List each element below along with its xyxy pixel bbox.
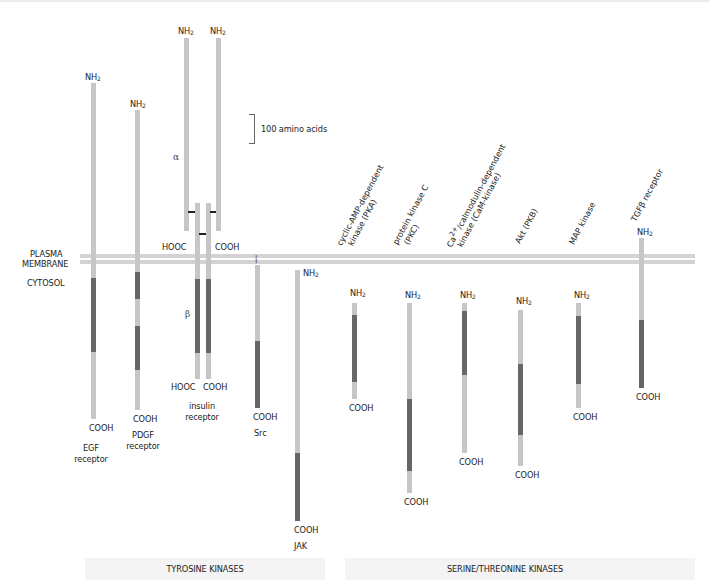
alpha-chain-label: α <box>173 152 179 162</box>
disulfide-bond-alpha-beta-right <box>210 211 216 213</box>
tgf-beta-kinase-domain <box>639 320 644 388</box>
map-kinase-name: MAP kinase <box>568 201 598 247</box>
plasma-membrane-outer-leaflet <box>80 254 695 258</box>
insulin-beta-chain-right <box>206 203 211 379</box>
tgf-beta-cooh-label: COOH <box>636 392 660 402</box>
pdgf-kinase-domain-1 <box>135 272 140 299</box>
plasma-membrane-inner-leaflet <box>80 260 695 264</box>
pka-kinase-domain <box>352 315 357 382</box>
insulin-alpha-hooc-label: HOOC <box>162 242 186 252</box>
egf-cooh-label: COOH <box>89 423 113 433</box>
pkc-cooh-label: COOH <box>404 497 428 507</box>
kinase-domain-diagram: TYROSINE KINASES SERINE/THREONINE KINASE… <box>0 0 709 586</box>
pka-chain <box>352 303 357 399</box>
insulin-alpha-chain-left <box>184 38 189 231</box>
cytosol-label: CYTOSOL <box>27 278 65 288</box>
akt-cooh-label: COOH <box>515 470 539 480</box>
cam-kinase-domain <box>462 311 467 375</box>
pdgf-receptor-chain <box>135 110 140 410</box>
plasma-membrane-label-line1: PLASMA <box>30 249 63 259</box>
cam-kinase-name: Ca2+/calmodulin-dependent kinase (CaM-ki… <box>443 141 517 253</box>
serine-threonine-kinases-label: SERINE/THREONINE KINASES <box>430 564 580 574</box>
cam-kinase-chain <box>462 303 467 453</box>
insulin-kinase-domain-right <box>206 279 211 353</box>
tgf-beta-receptor-chain <box>639 238 644 388</box>
egf-nh2-label: NH2 <box>85 72 101 82</box>
src-lipid-anchor-icon: ⸾ <box>255 256 258 263</box>
jak-chain <box>295 270 300 521</box>
pkc-kinase-domain <box>407 399 412 471</box>
scale-bar <box>249 114 255 144</box>
disulfide-bond-alpha-beta-left <box>188 211 195 213</box>
pka-cooh-label: COOH <box>349 403 373 413</box>
insulin-alpha2-nh2-label: NH2 <box>210 26 226 36</box>
jak-name: JAK <box>294 541 307 551</box>
egf-kinase-domain <box>91 278 96 352</box>
akt-nh2-label: NH2 <box>516 296 532 306</box>
src-kinase-domain <box>255 341 260 408</box>
pkc-chain <box>407 303 412 493</box>
pkc-name: protein kinase C (PKC) <box>391 183 439 251</box>
jak-nh2-label: NH2 <box>303 268 319 278</box>
plasma-membrane-label-line2: MEMBRANE <box>22 259 68 269</box>
pka-name: cyclic-AMP-dependent kinase (PKA) <box>335 163 394 252</box>
akt-chain <box>518 310 523 466</box>
scale-bar-label: 100 amino acids <box>261 124 327 134</box>
egf-receptor-chain <box>91 83 96 419</box>
pdgf-nh2-label: NH2 <box>130 99 146 109</box>
map-kinase-nh2-label: NH2 <box>574 290 590 300</box>
pdgf-cooh-label: COOH <box>133 414 157 424</box>
insulin-kinase-domain-left <box>195 279 200 353</box>
disulfide-bond-beta-beta <box>199 233 206 235</box>
jak-cooh-label: COOH <box>294 525 318 535</box>
src-cooh-label: COOH <box>253 412 277 422</box>
insulin-alpha-chain-right <box>216 38 221 231</box>
pdgf-receptor-name: PDGFreceptor <box>122 430 164 452</box>
pdgf-kinase-domain-2 <box>135 326 140 370</box>
beta-chain-label: β <box>185 309 190 319</box>
pka-nh2-label: NH2 <box>350 288 366 298</box>
map-kinase-cooh-label: COOH <box>573 412 597 422</box>
akt-name: Akt (PKB) <box>514 207 540 245</box>
top-border <box>0 0 709 2</box>
egf-receptor-name: EGFreceptor <box>70 443 112 465</box>
map-kinase-chain <box>576 303 581 408</box>
cam-kinase-cooh-label: COOH <box>459 457 483 467</box>
cam-kinase-nh2-label: NH2 <box>460 290 476 300</box>
akt-kinase-domain <box>518 364 523 435</box>
insulin-beta-hooc-label: HOOC <box>171 382 195 392</box>
jak-kinase-domain <box>295 453 300 521</box>
insulin-alpha-cooh-label: COOH <box>215 242 239 252</box>
insulin-alpha1-nh2-label: NH2 <box>178 26 194 36</box>
insulin-receptor-name: insulinreceptor <box>181 401 223 423</box>
pkc-nh2-label: NH2 <box>405 290 421 300</box>
tyrosine-kinases-label: TYROSINE KINASES <box>155 564 255 574</box>
src-name: Src <box>254 428 267 438</box>
map-kinase-domain <box>576 316 581 384</box>
tgf-beta-receptor-name: TGFβ receptor <box>630 167 666 223</box>
tgf-beta-nh2-label: NH2 <box>637 227 653 237</box>
insulin-beta-cooh-label: COOH <box>203 382 227 392</box>
insulin-beta-chain-left <box>195 203 200 379</box>
src-chain <box>255 265 260 408</box>
